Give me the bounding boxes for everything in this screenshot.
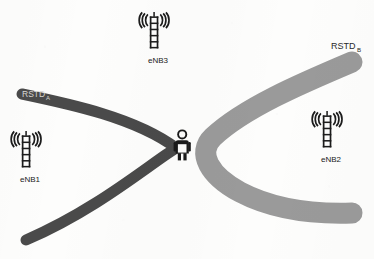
rstd-b-label-text: RSTD: [331, 41, 356, 51]
figure-canvas: RSTD A RSTD B eNB3 eNB1 eNB2: [0, 0, 374, 259]
rstd-a-label-subscript: A: [46, 95, 50, 101]
tower-enb2-label: eNB2: [321, 155, 342, 164]
rstd-b-label-subscript: B: [357, 46, 361, 53]
tower-enb3-label: eNB3: [148, 56, 169, 65]
rstd-a-curve: [22, 94, 176, 240]
rstd-a-label-text: RSTD: [22, 89, 45, 99]
rstd-b-label: RSTD B: [331, 41, 361, 53]
cell-tower-icon: [139, 12, 169, 48]
cell-tower-icon: [312, 111, 342, 147]
cell-tower-icon: [11, 131, 41, 167]
otdoa-rstd-diagram: RSTD A RSTD B eNB3 eNB1 eNB2: [0, 0, 374, 259]
user-equipment[interactable]: [174, 129, 191, 160]
rstd-a-label: RSTD A: [22, 89, 50, 101]
tower-enb2[interactable]: eNB2: [312, 111, 342, 164]
tower-enb1-label: eNB1: [20, 175, 41, 184]
tower-enb1[interactable]: eNB1: [11, 131, 41, 184]
person-with-phone-icon: [174, 129, 191, 160]
tower-enb3[interactable]: eNB3: [139, 12, 169, 65]
